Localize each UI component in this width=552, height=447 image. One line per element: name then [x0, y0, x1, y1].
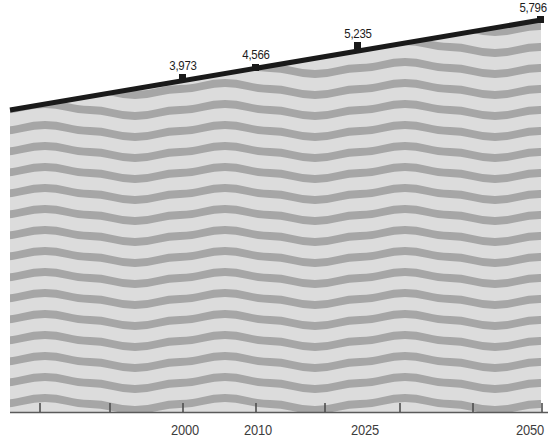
area-fill	[10, 20, 541, 412]
data-point-marker	[537, 16, 544, 23]
data-point-marker	[252, 64, 259, 71]
data-point-marker	[179, 74, 186, 81]
data-point-marker	[354, 42, 361, 49]
data-label-2025: 5,235	[333, 26, 382, 41]
chart-canvas	[0, 0, 552, 447]
area-chart: 3,973 4,566 5,235 5,796 2000 2010 2025 2…	[0, 0, 552, 447]
x-axis-label-2000: 2000	[161, 421, 209, 438]
data-label-2000: 3,973	[158, 58, 207, 73]
x-axis-label-2025: 2025	[341, 421, 389, 438]
x-axis-label-2050: 2050	[496, 421, 544, 438]
data-label-2010: 4,566	[231, 47, 280, 62]
data-label-2050: 5,796	[499, 0, 547, 15]
x-axis-label-2010: 2010	[234, 421, 282, 438]
